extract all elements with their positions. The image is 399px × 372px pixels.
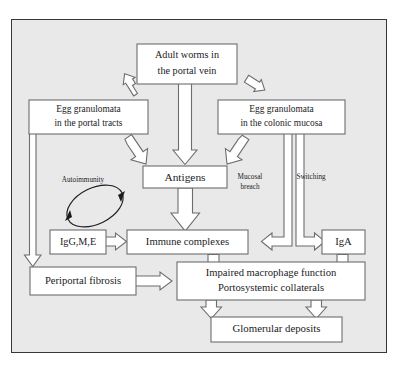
svg-text:Periportal fibrosis: Periportal fibrosis — [45, 275, 121, 286]
svg-text:Glomerular deposits: Glomerular deposits — [233, 322, 321, 334]
arrow-iggme-to-immunecomplexes — [104, 233, 127, 250]
arrow-periportalfibrosis-to-impaired — [135, 272, 172, 290]
node-antigens[interactable]: Antigens — [143, 166, 227, 188]
node-adult-worms[interactable]: Adult worms in the portal vein — [137, 44, 237, 84]
svg-text:Immune complexes: Immune complexes — [146, 236, 229, 247]
flowchart-svg: Autoimmunity Mucosal breach Switching Ad… — [0, 0, 399, 372]
arrow-adultworms-to-eggcolonic — [243, 73, 269, 96]
edge-label-mucosal-breach-line2: breach — [240, 183, 260, 191]
node-glomerular-deposits[interactable]: Glomerular deposits — [211, 317, 342, 342]
svg-text:Egg granulomata: Egg granulomata — [56, 104, 121, 114]
edge-label-autoimmunity: Autoimmunity — [62, 176, 105, 184]
figure-root: Autoimmunity Mucosal breach Switching Ad… — [0, 0, 399, 372]
node-igg-m-e[interactable]: IgG,M,E — [50, 230, 106, 254]
node-egg-granulomata-portal-tracts[interactable]: Egg granulomata in the portal tracts — [29, 100, 148, 134]
svg-text:Antigens: Antigens — [164, 171, 206, 183]
svg-text:in the portal tracts: in the portal tracts — [55, 118, 123, 128]
arrow-antigens-to-immunecomplexes — [171, 188, 200, 231]
edge-label-mucosal-breach-line1: Mucosal — [238, 173, 263, 181]
svg-text:in the colonic mucosa: in the colonic mucosa — [240, 118, 323, 128]
svg-text:IgG,M,E: IgG,M,E — [60, 236, 96, 247]
svg-text:Adult worms in: Adult worms in — [155, 49, 219, 60]
arrow-eggcolonic-to-iga — [296, 133, 325, 250]
arrow-impaired-to-glomerular-left — [201, 300, 222, 319]
arrow-eggcolonic-to-antigens — [219, 132, 254, 170]
node-egg-granulomata-colonic-mucosa[interactable]: Egg granulomata in the colonic mucosa — [218, 100, 345, 134]
arrow-adultworms-to-antigens — [173, 83, 197, 165]
arrow-eggportal-to-antigens — [120, 132, 155, 170]
arrow-eggcolonic-to-immunecomplexes — [262, 133, 293, 250]
svg-text:Impaired macrophage function: Impaired macrophage function — [206, 267, 337, 278]
svg-text:Portosystemic collaterals: Portosystemic collaterals — [218, 282, 324, 293]
svg-text:the portal vein: the portal vein — [158, 65, 217, 76]
autoimmunity-loop — [60, 177, 130, 236]
svg-text:IgA: IgA — [335, 236, 352, 247]
node-immune-complexes[interactable]: Immune complexes — [127, 230, 248, 254]
node-iga[interactable]: IgA — [322, 230, 365, 254]
svg-text:Egg granulomata: Egg granulomata — [249, 104, 314, 114]
edge-label-switching: Switching — [296, 173, 326, 181]
node-periportal-fibrosis[interactable]: Periportal fibrosis — [30, 267, 136, 295]
node-impaired-macrophage[interactable]: Impaired macrophage function Portosystem… — [177, 262, 365, 300]
arrow-eggportal-to-periportalfibrosis — [25, 133, 42, 267]
arrow-impaired-to-glomerular-right — [306, 300, 327, 319]
